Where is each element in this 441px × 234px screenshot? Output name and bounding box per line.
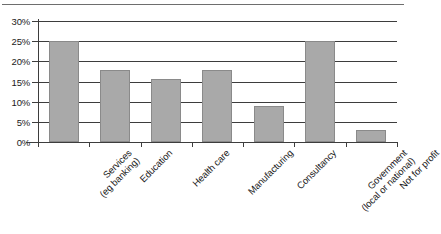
x-axis-category-label: Services(eg banking) (90, 148, 141, 199)
y-axis-tick-label: 30% (0, 17, 30, 27)
bar-slot (192, 21, 243, 142)
bar-slot (346, 21, 397, 142)
x-axis-tick-mark (397, 142, 398, 147)
bar-slot (243, 21, 294, 142)
bars-layer (38, 21, 397, 142)
x-axis-line (26, 142, 397, 143)
x-axis-label-line1: Manufacturing (245, 147, 294, 196)
x-axis-tick-mark (346, 142, 347, 147)
bar[interactable] (202, 70, 232, 142)
x-axis-category-label: Manufacturing (246, 148, 295, 197)
bar-slot (38, 21, 89, 142)
x-axis-tick-mark (243, 142, 244, 147)
y-axis-labels: 0%5%10%15%20%25%30% (0, 21, 30, 142)
y-axis-tick-label: 10% (0, 97, 30, 107)
x-axis-category-labels: Services(eg banking)EducationHealth care… (0, 148, 407, 234)
y-axis-tick-label: 15% (0, 77, 30, 87)
y-axis-tick-label: 20% (0, 57, 30, 67)
x-axis-tick-mark (141, 142, 142, 147)
bar-slot (141, 21, 192, 142)
bar-slot (89, 21, 140, 142)
scan-artifact-rule (2, 4, 404, 5)
y-axis-tick-label: 25% (0, 37, 30, 47)
bar[interactable] (151, 79, 181, 142)
x-axis-category-label: Health care (191, 148, 232, 189)
x-axis-category-label: Education (138, 148, 175, 185)
x-axis-label-line1: Education (138, 147, 175, 184)
x-axis-tick-mark (192, 142, 193, 147)
x-axis-label-line1: Consultancy (294, 147, 338, 191)
x-axis-tick-mark (89, 142, 90, 147)
x-axis-label-line1: Health care (191, 147, 232, 188)
bar[interactable] (100, 70, 130, 142)
bar-slot (294, 21, 345, 142)
bar[interactable] (254, 106, 284, 142)
bar[interactable] (49, 41, 79, 142)
x-axis-category-label: Consultancy (295, 148, 339, 192)
y-axis-tick-label: 5% (0, 117, 30, 127)
x-axis-tick-mark (294, 142, 295, 147)
x-axis-tick-mark (38, 142, 39, 147)
bar[interactable] (356, 130, 386, 142)
bar[interactable] (305, 41, 335, 142)
